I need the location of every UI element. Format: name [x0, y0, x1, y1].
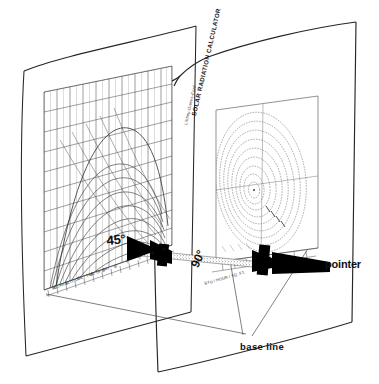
diagram-canvas [0, 0, 379, 384]
solar-radiation-calculator-figure: 45° 90° pointer base line SOLAR RADIATIO… [0, 0, 379, 384]
right-chart-plate [209, 96, 318, 262]
